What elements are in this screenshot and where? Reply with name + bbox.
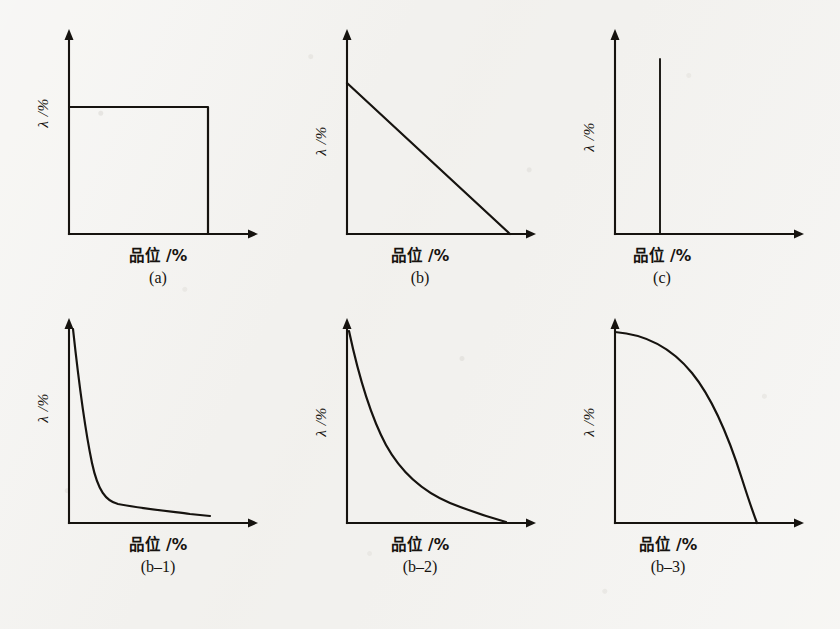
panel-c-caption: (c) <box>596 269 728 287</box>
panel-a-curve <box>69 107 208 234</box>
panel-b-1-plot <box>58 315 258 530</box>
panel-b-ylabel: λ /% <box>312 126 330 156</box>
panel-a-xlabel: 品位 /% <box>92 243 224 265</box>
panel-c-axes <box>611 29 805 239</box>
panel-c-xlabel: 品位 /% <box>596 243 728 265</box>
panel-b-2-axes <box>343 318 537 528</box>
panel-b-curve <box>347 83 510 234</box>
panel-b-xlabel: 品位 /% <box>354 243 486 265</box>
panel-a-ylabel: λ /% <box>34 98 52 128</box>
panel-b-1-xlabel: 品位 /% <box>92 532 224 554</box>
panel-b-3: λ /% 品位 /% (b–3) <box>604 315 804 530</box>
panel-b-2-plot <box>336 315 536 530</box>
panel-b-1: λ /% 品位 /% (b–1) <box>58 315 258 530</box>
figure-six-panel-grade-recovery: λ /% 品位 /% (a) λ /% 品位 /% (b) <box>0 0 840 629</box>
panel-b-2-caption: (b–2) <box>354 558 486 576</box>
panel-c-ylabel: λ /% <box>580 122 598 152</box>
panel-b-caption: (b) <box>354 269 486 287</box>
panel-b-1-axes <box>65 318 259 528</box>
panel-b-3-ylabel: λ /% <box>580 407 598 437</box>
panel-b-1-ylabel: λ /% <box>34 393 52 423</box>
panel-b-3-caption: (b–3) <box>602 558 734 576</box>
panel-b-2: λ /% 品位 /% (b–2) <box>336 315 536 530</box>
panel-a-plot <box>58 26 258 241</box>
panel-a-axes <box>65 29 259 239</box>
panel-b-1-caption: (b–1) <box>92 558 224 576</box>
panel-b-axes <box>343 29 537 239</box>
panel-b-2-curve <box>349 331 506 522</box>
panel-b-3-axes <box>611 318 805 528</box>
panel-c-plot <box>604 26 804 241</box>
panel-a-caption: (a) <box>92 269 224 287</box>
panel-b-2-ylabel: λ /% <box>312 407 330 437</box>
panel-b-3-xlabel: 品位 /% <box>602 532 734 554</box>
panel-b-plot <box>336 26 536 241</box>
panel-b-2-xlabel: 品位 /% <box>354 532 486 554</box>
panel-a: λ /% 品位 /% (a) <box>58 26 258 241</box>
panel-b-3-curve <box>615 332 757 523</box>
panel-b: λ /% 品位 /% (b) <box>336 26 536 241</box>
panel-b-3-plot <box>604 315 804 530</box>
panel-c: λ /% 品位 /% (c) <box>604 26 804 241</box>
panel-b-1-curve <box>73 329 210 516</box>
